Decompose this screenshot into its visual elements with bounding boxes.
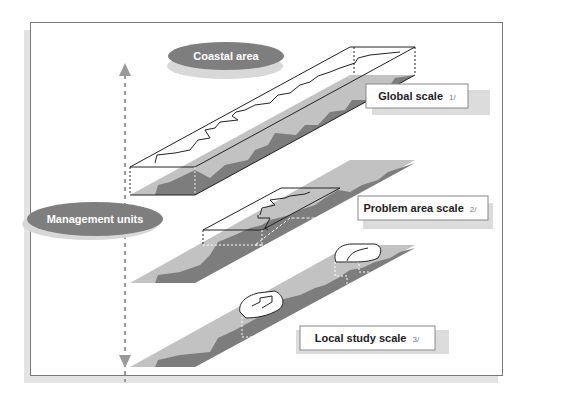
problem-area-scale-label: Problem area scale 2/ [358,196,493,229]
local-study-scale-label: Local study scale 3/ [296,326,449,354]
scale-diagram: Global scale 1/ Problem area scale 2/ [0,0,571,399]
arrow-up-icon [119,63,131,76]
global-scale-footnote: 1/ [449,93,456,102]
local-study-scale-text: Local study scale [315,332,407,344]
problem-area-scale-footnote: 2/ [470,205,477,214]
coastal-area-ellipse: Coastal area [167,42,284,79]
global-scale-text: Global scale [378,90,443,102]
arrow-down-icon [119,355,131,368]
local-study-scale-footnote: 3/ [413,335,420,344]
management-units-text: Management units [47,213,144,225]
management-units-ellipse: Management units [22,202,163,240]
svg-text:Problem area scale 2/: Problem area scale 2/ [363,202,477,214]
coastal-area-text: Coastal area [193,50,259,62]
svg-text:Local study scale 3/: Local study scale 3/ [315,332,420,344]
global-scale-label: Global scale 1/ [366,84,490,115]
svg-text:Global scale 1/: Global scale 1/ [378,90,456,102]
problem-area-scale-text: Problem area scale [363,202,463,214]
